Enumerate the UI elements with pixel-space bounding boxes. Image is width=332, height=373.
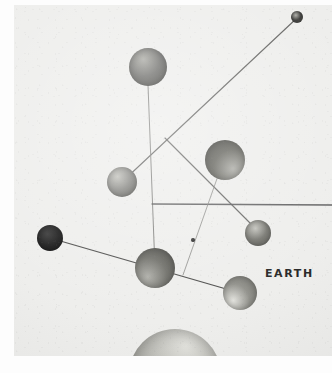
tip-top-right	[291, 11, 303, 23]
sphere-right-large	[205, 140, 245, 180]
sphere-mid-left	[107, 167, 137, 197]
photo-print-area: EARTH	[14, 5, 332, 356]
sphere-center-low	[135, 248, 175, 288]
mobile-rods-layer	[14, 5, 332, 356]
bead-small	[191, 238, 195, 242]
rod-thin-vertical	[183, 173, 219, 275]
photograph-canvas: EARTH	[0, 0, 332, 373]
rod-top-vertical	[148, 85, 155, 268]
earth-label: EARTH	[265, 267, 314, 280]
sphere-far-left-dark	[37, 225, 63, 251]
rod-horizontal	[152, 204, 332, 205]
sphere-right-small	[245, 220, 271, 246]
sphere-earth	[223, 276, 257, 310]
sphere-top	[129, 48, 167, 86]
